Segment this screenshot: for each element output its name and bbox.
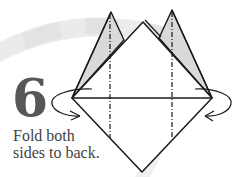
instruction-line-1: Fold both	[13, 127, 100, 144]
origami-step-diagram: 6 Fold both sides to back.	[0, 0, 245, 177]
step-number: 6	[12, 72, 47, 124]
step-instruction: Fold both sides to back.	[13, 127, 100, 161]
instruction-line-2: sides to back.	[13, 144, 100, 161]
